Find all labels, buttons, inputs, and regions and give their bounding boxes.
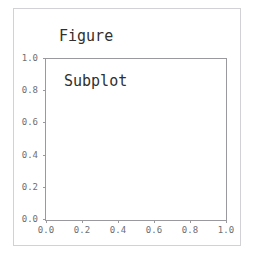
y-tick-label: 1.0 bbox=[22, 54, 38, 63]
subplot-axes: Subplot 0.0 0.2 0.4 0.6 0.8 1.0 0.0 bbox=[45, 58, 227, 221]
x-tick-label: 0.2 bbox=[74, 226, 90, 235]
x-tick-mark bbox=[82, 220, 83, 223]
x-tick-label: 0.8 bbox=[182, 226, 198, 235]
x-tick-label: 0.4 bbox=[110, 226, 126, 235]
figure-patch: Figure Subplot 0.0 0.2 0.4 0.6 0.8 1.0 bbox=[13, 8, 241, 246]
matplotlib-figure-canvas: ·· ·· ··· ·· ·· ·· ·· Figure Subplot 0.0… bbox=[0, 0, 254, 255]
x-tick-mark bbox=[190, 220, 191, 223]
subplot-title-text: Subplot bbox=[64, 73, 127, 89]
y-tick-label: 0.2 bbox=[22, 182, 38, 191]
y-tick-mark: 1.0 bbox=[43, 58, 46, 59]
x-tick-mark bbox=[118, 220, 119, 223]
y-tick-mark: 0.6 bbox=[43, 122, 46, 123]
figure-title-text: Figure bbox=[59, 28, 113, 44]
cropped-top-strip: ·· ·· ··· ·· ·· ·· ·· bbox=[0, 0, 254, 6]
x-tick-label: 0.0 bbox=[38, 226, 54, 235]
y-tick-mark: 0.2 bbox=[43, 187, 46, 188]
y-tick-mark: 0.4 bbox=[43, 155, 46, 156]
x-tick-mark bbox=[226, 220, 227, 223]
y-tick-label: 0.0 bbox=[22, 215, 38, 224]
x-tick-label: 0.6 bbox=[146, 226, 162, 235]
y-tick-label: 0.6 bbox=[22, 118, 38, 127]
y-tick-mark: 0.8 bbox=[43, 90, 46, 91]
x-tick-mark bbox=[154, 220, 155, 223]
y-tick-label: 0.8 bbox=[22, 86, 38, 95]
y-tick-label: 0.4 bbox=[22, 150, 38, 159]
x-tick-label: 1.0 bbox=[218, 226, 234, 235]
cropped-top-strip-text: ·· ·· ··· ·· ·· ·· ·· bbox=[12, 0, 189, 3]
x-tick-mark bbox=[46, 220, 47, 223]
